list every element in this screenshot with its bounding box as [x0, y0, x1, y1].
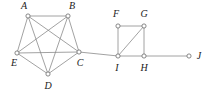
graph-vertex-c: [77, 50, 81, 54]
graph-edge-b-c: [68, 16, 79, 52]
graph-edge-a-d: [28, 16, 48, 74]
graph-vertex-b: [66, 14, 70, 18]
graph-edge-g-i: [118, 26, 144, 56]
vertex-label-f: F: [112, 8, 120, 19]
graph-vertex-i: [116, 54, 120, 58]
vertex-label-g: G: [140, 8, 147, 19]
vertex-label-b: B: [69, 0, 75, 11]
vertex-label-e: E: [10, 57, 17, 68]
graph-vertex-f: [116, 24, 120, 28]
graph-edge-c-d: [48, 52, 79, 74]
vertex-label-h: H: [139, 62, 148, 73]
graph-vertex-h: [142, 54, 146, 58]
graph-edge-d-e: [17, 53, 48, 74]
graph-canvas: ABCDEFGHIJ: [0, 0, 208, 98]
graph-vertex-g: [142, 24, 146, 28]
graph-diagram: ABCDEFGHIJ: [0, 0, 208, 98]
vertex-labels-group: ABCDEFGHIJ: [10, 0, 202, 91]
graph-edge-b-d: [48, 16, 68, 74]
vertex-label-c: C: [77, 57, 84, 68]
vertex-label-a: A: [20, 0, 28, 11]
graph-vertex-d: [46, 72, 50, 76]
graph-vertex-e: [15, 51, 19, 55]
graph-edge-c-i: [79, 52, 118, 56]
graph-edge-a-c: [28, 16, 79, 52]
graph-vertex-a: [26, 14, 30, 18]
graph-vertex-j: [187, 54, 191, 58]
graph-edge-a-e: [17, 16, 28, 53]
vertex-label-i: I: [114, 62, 119, 73]
graph-edge-c-e: [17, 52, 79, 53]
vertex-label-d: D: [43, 80, 52, 91]
vertex-label-j: J: [197, 50, 202, 61]
vertices-group: [15, 14, 191, 76]
edges-group: [17, 16, 189, 74]
graph-edge-b-e: [17, 16, 68, 53]
